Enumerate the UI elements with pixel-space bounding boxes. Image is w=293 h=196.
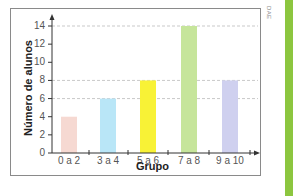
credit-label: DAE [266, 6, 272, 19]
x-tick-label: 3 a 4 [88, 155, 128, 166]
x-tick-label: 9 a 10 [210, 155, 250, 166]
bar-9-a-10 [222, 80, 238, 153]
x-axis-title: Grupo [136, 160, 169, 172]
x-tick-label: 7 a 8 [169, 155, 209, 166]
chart-figure: 024681012140 a 23 a 45 a 67 a 89 a 10 Nú… [0, 0, 293, 196]
x-axis-arrow-icon [254, 151, 260, 156]
bar-7-a-8 [181, 26, 197, 153]
bar-5-a-6 [140, 80, 156, 153]
bar-3-a-4 [100, 99, 116, 153]
y-axis-arrow-icon [50, 14, 55, 20]
accent-stripe [285, 0, 293, 196]
y-axis-title: Número de alunos [22, 40, 34, 136]
y-tick-label: 14 [25, 20, 45, 31]
y-tick-label: 0 [25, 147, 45, 158]
bar-0-a-2 [61, 117, 77, 153]
x-tick-label: 0 a 2 [49, 155, 89, 166]
